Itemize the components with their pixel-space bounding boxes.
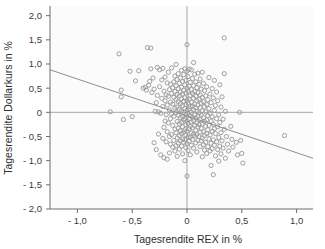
x-tick-label: - 0,5 [123, 215, 142, 226]
scatter-chart-figure: 2,01,51,00,50- 0,5- 1,0- 1,5- 2,0 - 1,0-… [0, 0, 325, 249]
y-tick-label: 1,0 [29, 58, 42, 69]
y-tick-label: 2,0 [29, 10, 42, 21]
y-axis-ticks: 2,01,51,00,50- 0,5- 1,0- 1,5- 2,0 [23, 10, 50, 214]
x-tick-label: 0,5 [235, 215, 248, 226]
x-tick-label: 1,0 [290, 215, 303, 226]
y-tick-label: 0 [37, 107, 42, 118]
y-tick-label: - 0,5 [23, 131, 42, 142]
x-tick-label: - 1,0 [68, 215, 87, 226]
x-tick-label: 0 [184, 215, 189, 226]
y-tick-label: - 1,5 [23, 179, 42, 190]
y-tick-label: - 2,0 [23, 203, 42, 214]
y-tick-label: - 1,0 [23, 155, 42, 166]
y-tick-label: 1,5 [29, 34, 42, 45]
chart-canvas: 2,01,51,00,50- 0,5- 1,0- 1,5- 2,0 - 1,0-… [0, 0, 325, 249]
y-axis-title: Tagesrendite Dollarkurs in % [2, 41, 14, 175]
x-axis-title: Tagesrendite REX in % [134, 233, 242, 245]
x-axis-ticks: - 1,0- 0,500,51,0 [68, 209, 303, 226]
y-tick-label: 0,5 [29, 83, 42, 94]
